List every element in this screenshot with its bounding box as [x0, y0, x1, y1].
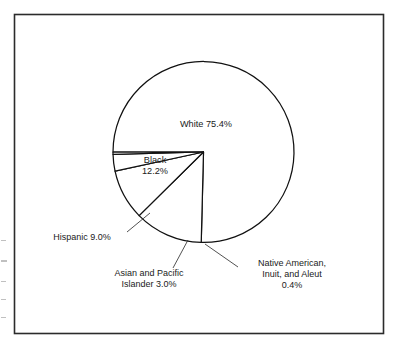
scan-edge-mark — [1, 260, 7, 262]
scan-edge-mark — [1, 317, 6, 318]
pie-chart-svg: White 75.4%Black12.2%Hispanic 9.0%Asian … — [0, 0, 396, 348]
scan-edge-mark — [1, 281, 6, 282]
chart-figure: White 75.4%Black12.2%Hispanic 9.0%Asian … — [0, 0, 396, 348]
slice-label-2: Black12.2% — [142, 155, 168, 176]
leader-line-5 — [205, 244, 238, 267]
scan-edge-mark — [1, 299, 6, 300]
slice-label-5: Native American,Inuit, and Aleut0.4% — [258, 258, 326, 290]
pie-wedges — [113, 61, 294, 242]
slice-label-4: Asian and PacificIslander 3.0% — [114, 268, 184, 289]
slice-label-3: Hispanic 9.0% — [53, 232, 111, 242]
leader-line-4 — [173, 240, 188, 268]
scan-edge-mark — [1, 240, 6, 241]
slice-label-1: White 75.4% — [180, 119, 232, 129]
